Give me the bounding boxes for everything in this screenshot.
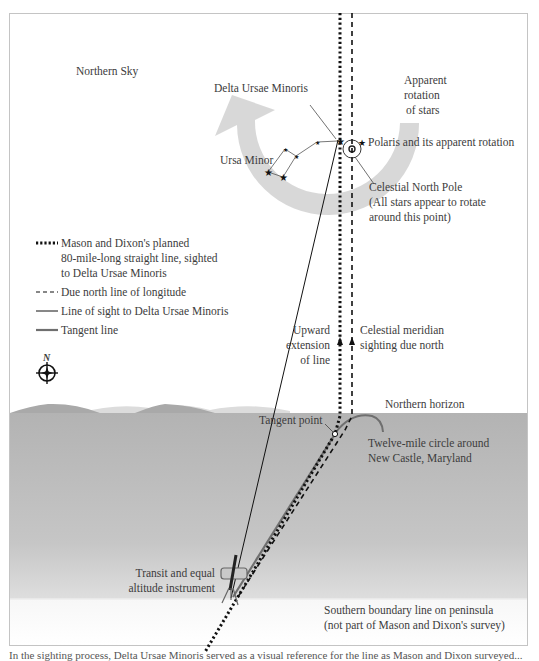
delta-ursae-minoris-label: Delta Ursae Minoris [214, 81, 308, 96]
legend-solid-label: Line of sight to Delta Ursae Minoris [61, 304, 228, 319]
apparent-rotation-label-1: Apparent [404, 73, 447, 88]
northern-sky-label: Northern Sky [76, 64, 138, 79]
figure-caption: In the sighting process, Delta Ursae Min… [9, 649, 523, 661]
svg-text:★: ★ [294, 154, 299, 160]
southern-boundary-label-1: Southern boundary line on peninsula [324, 603, 493, 618]
meridian-label-2: sighting due north [360, 338, 444, 353]
svg-text:★: ★ [279, 172, 288, 183]
tangent-point-marker [332, 431, 337, 436]
upward-extension-label-1: Upward [280, 323, 330, 338]
northern-horizon-label: Northern horizon [385, 397, 465, 412]
legend-dotted-line-2: 80-mile-long straight line, sighted [61, 251, 218, 266]
svg-text:★: ★ [358, 138, 366, 148]
twelve-mile-label-1: Twelve-mile circle around [368, 436, 489, 451]
apparent-rotation-label-3: of stars [406, 103, 440, 118]
celestial-pole-title: Celestial North Pole [369, 180, 462, 195]
legend-tangent-label: Tangent line [61, 323, 118, 338]
upward-extension-label-3: of line [280, 353, 330, 368]
instrument-label-1: Transit and equal [110, 566, 215, 581]
instrument-label-2: altitude instrument [110, 581, 215, 596]
legend-dashed-label: Due north line of longitude [61, 285, 186, 300]
legend-dotted-line-1: Mason and Dixon's planned [61, 236, 189, 251]
svg-text:★: ★ [315, 140, 320, 146]
tangent-point-label: Tangent point [259, 413, 322, 428]
svg-text:★: ★ [283, 147, 288, 153]
ursa-minor-label: Ursa Minor [220, 153, 273, 168]
celestial-pole-note-1: (All stars appear to rotate [369, 195, 486, 210]
celestial-pole-note-2: around this point) [369, 210, 451, 225]
twelve-mile-label-2: New Castle, Maryland [368, 451, 472, 466]
polaris-label: Polaris and its apparent rotation [368, 135, 514, 150]
compass-north-label: N [43, 350, 50, 365]
apparent-rotation-label-2: rotation [404, 88, 440, 103]
upward-extension-label-2: extension [270, 338, 330, 353]
legend-dotted-line-3: to Delta Ursae Minoris [61, 266, 167, 281]
southern-boundary-label-2: (not part of Mason and Dixon's survey) [324, 618, 505, 633]
svg-text:★: ★ [264, 167, 273, 178]
meridian-label-1: Celestial meridian [360, 323, 444, 338]
